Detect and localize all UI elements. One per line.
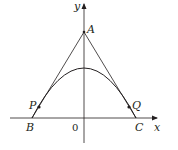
point-P-label: P — [28, 99, 37, 112]
origin-label: 0 — [72, 122, 78, 133]
x-axis-label: x — [154, 121, 161, 134]
point-Q-dot — [127, 105, 130, 108]
point-Q-label: Q — [132, 99, 141, 112]
y-axis-label: y — [73, 0, 81, 13]
point-B-label: B — [25, 121, 34, 134]
diagram-canvas: y x 0 A B C P Q — [0, 0, 178, 150]
line-AB — [32, 32, 84, 118]
line-AC — [84, 32, 136, 118]
point-C-label: C — [135, 121, 144, 134]
point-A-dot — [83, 31, 86, 34]
point-A-label: A — [86, 23, 95, 36]
point-P-dot — [37, 105, 40, 108]
